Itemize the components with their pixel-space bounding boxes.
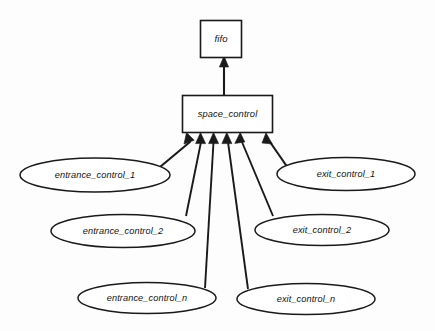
edge-group [160, 56, 288, 289]
node-fifo[interactable]: fifo [201, 21, 242, 58]
node-exit-control-1[interactable]: exit_control_1 [277, 158, 415, 191]
edge-entrance-control-n [205, 142, 214, 288]
edge-entrance-control-1 [160, 142, 191, 168]
arrowhead-exit-control-1 [262, 133, 272, 144]
diagram-canvas: fifo space_control entrance_control_1 ex… [0, 0, 435, 331]
entrance-control-1-label: entrance_control_1 [55, 170, 135, 180]
node-exit-control-2[interactable]: exit_control_2 [255, 215, 389, 246]
edge-entrance-control-2 [186, 142, 201, 216]
node-exit-control-n[interactable]: exit_control_n [237, 284, 375, 315]
arrowhead-exit-control-2 [235, 133, 245, 144]
entrance-control-2-label: entrance_control_2 [83, 226, 163, 236]
exit-control-n-label: exit_control_n [277, 294, 336, 304]
arrowhead-entrance-control-n [209, 133, 219, 144]
arrowhead-exit-control-n [222, 133, 232, 144]
node-entrance-control-2[interactable]: entrance_control_2 [51, 215, 195, 248]
node-entrance-control-1[interactable]: entrance_control_1 [20, 158, 170, 192]
fifo-label: fifo [214, 33, 228, 44]
entrance-control-n-label: entrance_control_n [107, 293, 187, 303]
arrowhead-entrance-control-1 [184, 133, 194, 145]
edge-exit-control-2 [242, 142, 273, 216]
node-entrance-control-n[interactable]: entrance_control_n [78, 283, 216, 314]
arrowhead-entrance-control-2 [196, 133, 206, 144]
exit-control-1-label: exit_control_1 [317, 169, 376, 179]
edge-exit-control-n [228, 142, 248, 289]
edge-exit-control-1 [270, 142, 288, 168]
node-space-control[interactable]: space_control [183, 96, 273, 133]
space-control-label: space_control [198, 108, 258, 119]
diagram-svg: fifo space_control entrance_control_1 ex… [0, 0, 435, 331]
exit-control-2-label: exit_control_2 [293, 225, 352, 235]
